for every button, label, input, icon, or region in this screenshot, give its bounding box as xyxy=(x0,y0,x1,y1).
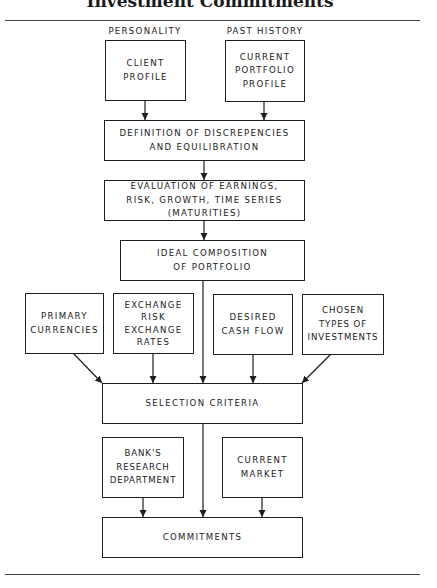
commitments-text: COMMITMENTS xyxy=(163,531,243,545)
current-portfolio-profile-box: CURRENT PORTFOLIO PROFILE xyxy=(225,40,305,102)
current-market-text: CURRENT MARKET xyxy=(237,454,287,481)
bottom-rule xyxy=(5,574,420,575)
selection-criteria-text: SELECTION CRITERIA xyxy=(146,397,260,411)
current-market-box: CURRENT MARKET xyxy=(222,437,303,498)
client-profile-box: CLIENT PROFILE xyxy=(105,40,186,101)
arrow-primary-to-selection xyxy=(73,353,102,383)
ideal-composition-text: IDEAL COMPOSITION OF PORTFOLIO xyxy=(157,247,268,274)
chosen-types-box: CHOSEN TYPES OF INVESTMENTS xyxy=(302,294,384,355)
desired-cash-flow-box: DESIRED CASH FLOW xyxy=(213,294,293,355)
evaluation-box: EVALUATION OF EARNINGS, RISK, GROWTH, TI… xyxy=(104,180,305,221)
exchange-risk-box: EXCHANGE RISK EXCHANGE RATES xyxy=(113,293,194,354)
selection-criteria-box: SELECTION CRITERIA xyxy=(102,383,303,424)
evaluation-text: EVALUATION OF EARNINGS, RISK, GROWTH, TI… xyxy=(126,180,282,221)
definition-box: DEFINITION OF DISCREPENCIES AND EQUILIBR… xyxy=(104,120,305,161)
current-portfolio-profile-text: CURRENT PORTFOLIO PROFILE xyxy=(235,51,295,92)
flowchart-page: Investment Commitments xyxy=(0,0,437,588)
personality-label: PERSONALITY xyxy=(100,26,190,36)
arrow-chosen-to-selection xyxy=(302,354,331,383)
primary-currencies-box: PRIMARY CURRENCIES xyxy=(25,293,104,354)
ideal-composition-box: IDEAL COMPOSITION OF PORTFOLIO xyxy=(120,240,305,281)
desired-cash-flow-text: DESIRED CASH FLOW xyxy=(222,311,285,338)
banks-research-text: BANK'S RESEARCH DEPARTMENT xyxy=(110,447,177,488)
exchange-risk-text: EXCHANGE RISK EXCHANGE RATES xyxy=(125,299,183,349)
primary-currencies-text: PRIMARY CURRENCIES xyxy=(30,310,99,337)
definition-text: DEFINITION OF DISCREPENCIES AND EQUILIBR… xyxy=(119,127,289,154)
client-profile-text: CLIENT PROFILE xyxy=(123,57,168,84)
commitments-box: COMMITMENTS xyxy=(102,517,303,558)
banks-research-box: BANK'S RESEARCH DEPARTMENT xyxy=(102,437,184,498)
chosen-types-text: CHOSEN TYPES OF INVESTMENTS xyxy=(308,304,379,345)
past-history-label: PAST HISTORY xyxy=(218,26,312,36)
